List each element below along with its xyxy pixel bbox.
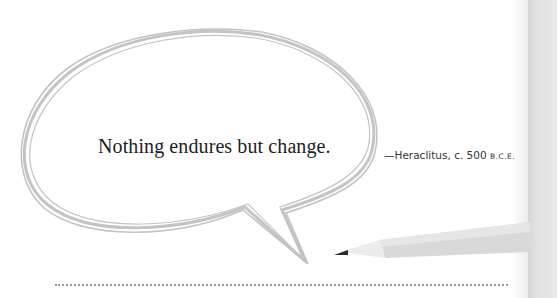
attribution-author: —Heraclitus, c. 500	[384, 149, 490, 161]
pencil-icon	[334, 222, 530, 258]
attribution-era: B.C.E.	[490, 152, 515, 161]
dotted-divider	[55, 284, 508, 286]
quote-attribution: —Heraclitus, c. 500 B.C.E.	[384, 149, 515, 161]
quote-text: Nothing endures but change.	[98, 135, 331, 158]
